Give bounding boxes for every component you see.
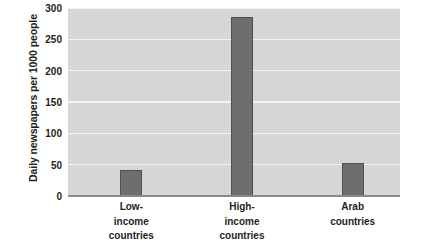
category-label-3: Arabcountries — [305, 200, 401, 229]
bar-3[interactable] — [342, 163, 364, 196]
category-label-2: High-incomecountries — [194, 200, 290, 244]
x-axis-line — [68, 195, 400, 197]
y-axis-tick-label: 0 — [56, 191, 62, 202]
y-axis-tick-label: 50 — [51, 159, 62, 170]
y-axis-tick-label: 150 — [45, 97, 62, 108]
x-axis-category-labels: Low-incomecountriesHigh-incomecountriesA… — [68, 200, 400, 248]
bar-2[interactable] — [231, 17, 253, 196]
y-axis-tick-label: 100 — [45, 128, 62, 139]
category-label-line: High- — [194, 200, 290, 215]
category-label-line: income — [194, 215, 290, 230]
gridline — [68, 8, 400, 9]
category-label-line: Low- — [83, 200, 179, 215]
bar-chart: Daily newspapers per 1000 people 0501001… — [0, 0, 422, 250]
category-label-line: countries — [305, 215, 401, 230]
plot-area — [68, 8, 400, 196]
y-axis-tick-labels: 050100150200250300 — [30, 8, 62, 196]
y-axis-tick-label: 200 — [45, 65, 62, 76]
y-axis-tick-label: 300 — [45, 3, 62, 14]
bar-1[interactable] — [120, 170, 142, 196]
category-label-1: Low-incomecountries — [83, 200, 179, 244]
category-label-line: countries — [83, 229, 179, 244]
category-label-line: countries — [194, 229, 290, 244]
category-label-line: income — [83, 215, 179, 230]
y-axis-tick-label: 250 — [45, 34, 62, 45]
category-label-line: Arab — [305, 200, 401, 215]
